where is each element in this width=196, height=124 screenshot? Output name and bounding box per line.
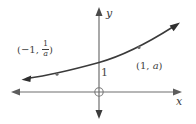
x-axis-left-arrowhead [11,88,20,95]
y-axis-bottom-arrowhead [96,110,103,119]
graph-canvas [0,0,196,124]
point-label-right: (1, a) [136,61,163,71]
y-axis-label: y [106,8,112,19]
exponential-function-graph: y x 1 (−1, 1 a ) (1, a) [0,0,196,124]
y-axis-top-arrowhead [96,7,103,16]
point-label-left-x-value: −1, [21,44,39,55]
point-label-left-fraction: 1 a [42,40,49,59]
curve-left-arrowhead [22,75,32,82]
x-axis-label: x [176,96,182,107]
point-label-left-close-paren: ) [49,44,53,55]
point-label-left: (−1, 1 a ) [17,41,53,60]
point-marker-right [138,46,141,49]
point-label-right-close-paren: ) [159,60,163,71]
fraction-denominator: a [42,50,49,58]
point-label-right-x-value: 1, [140,60,150,71]
y-intercept-tick-label: 1 [101,67,108,78]
fraction-numerator: 1 [42,40,49,48]
curve-right-arrowhead [170,23,180,32]
point-marker-left [56,73,59,76]
